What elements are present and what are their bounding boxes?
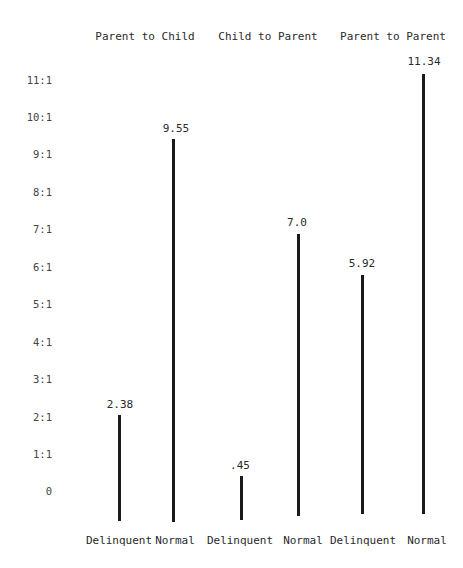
y-tick-10: 10:1 xyxy=(10,111,52,123)
y-tick-5: 5:1 xyxy=(10,298,52,310)
y-tick-4: 4:1 xyxy=(10,336,52,348)
value-label-0: 2.38 xyxy=(107,398,134,411)
group-title-parent-to-child: Parent to Child xyxy=(95,30,194,43)
bar-parent-to-parent-delinquent xyxy=(361,275,364,514)
bar-child-to-parent-delinquent xyxy=(240,476,243,520)
x-label-delinquent-3: Delinquent xyxy=(330,534,396,547)
value-label-5: 11.34 xyxy=(407,55,440,68)
x-label-normal-3: Normal xyxy=(407,534,447,547)
y-tick-2: 2:1 xyxy=(10,411,52,423)
value-label-4: 5.92 xyxy=(349,257,376,270)
bar-parent-to-child-normal xyxy=(172,139,175,522)
y-tick-9: 9:1 xyxy=(10,148,52,160)
value-label-2: .45 xyxy=(230,459,250,472)
y-tick-7: 7:1 xyxy=(10,223,52,235)
group-title-child-to-parent: Child to Parent xyxy=(218,30,317,43)
bar-child-to-parent-normal xyxy=(297,234,300,516)
y-tick-6: 6:1 xyxy=(10,261,52,273)
group-title-parent-to-parent: Parent to Parent xyxy=(340,30,446,43)
bar-parent-to-child-delinquent xyxy=(118,415,121,521)
x-label-delinquent-1: Delinquent xyxy=(86,534,152,547)
y-tick-11: 11:1 xyxy=(10,74,52,86)
y-tick-0: 0 xyxy=(10,485,52,497)
x-label-delinquent-2: Delinquent xyxy=(207,534,273,547)
bar-parent-to-parent-normal xyxy=(422,74,425,514)
y-tick-1: 1:1 xyxy=(10,448,52,460)
value-label-1: 9.55 xyxy=(163,122,190,135)
x-label-normal-2: Normal xyxy=(283,534,323,547)
value-label-3: 7.0 xyxy=(287,216,307,229)
y-tick-3: 3:1 xyxy=(10,373,52,385)
y-tick-8: 8:1 xyxy=(10,186,52,198)
x-label-normal-1: Normal xyxy=(155,534,195,547)
